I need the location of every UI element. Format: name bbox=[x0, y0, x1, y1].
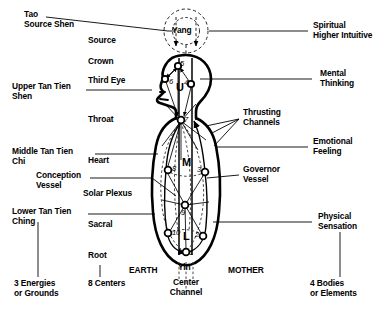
label-middle-tan-tien-mark: M bbox=[182, 156, 191, 169]
label-source: Source bbox=[88, 36, 116, 46]
center-node-4 bbox=[188, 81, 194, 87]
label-upper-tan-tien-mark: U bbox=[176, 81, 184, 94]
center-number-8: 8 bbox=[172, 165, 176, 174]
label-physical-sensation: Physical Sensation bbox=[318, 212, 357, 232]
center-node-3 bbox=[202, 169, 209, 176]
center-node-8 bbox=[165, 167, 172, 174]
label-heart: Heart bbox=[88, 156, 109, 166]
label-sacral: Sacral bbox=[88, 220, 113, 230]
label-yang: Yang bbox=[172, 26, 192, 36]
label-earth: EARTH bbox=[129, 266, 157, 276]
label-eight-centers: 8 Centers bbox=[88, 279, 125, 289]
center-node-2 bbox=[200, 233, 207, 240]
label-three-energies: 3 Energies or Grounds bbox=[14, 279, 59, 299]
label-four-bodies: 4 Bodies or Elements bbox=[310, 279, 357, 299]
label-spiritual-higher-intuitive: Spiritual Higher Intuitive bbox=[313, 21, 373, 41]
center-number-6: 6 bbox=[169, 78, 173, 87]
center-number-3: 3 bbox=[197, 166, 201, 175]
center-number-4: 4 bbox=[184, 79, 188, 88]
label-third-eye: Third Eye bbox=[88, 76, 125, 86]
label-crown: Crown bbox=[88, 57, 114, 67]
diagram-canvas: Tao Source Shen Upper Tan Tien Shen Midd… bbox=[0, 0, 373, 322]
center-number-2: 2 bbox=[195, 231, 199, 240]
label-lower-tan-tien-mark: L bbox=[183, 230, 190, 243]
label-lower-tan-tien: Lower Tan Tien Ching bbox=[12, 207, 71, 227]
label-middle-tan-tien: Middle Tan Tien Chi bbox=[12, 147, 73, 167]
label-root: Root bbox=[88, 251, 107, 261]
label-throat: Throat bbox=[88, 115, 113, 125]
label-center-channel: Center Channel bbox=[158, 278, 214, 298]
label-upper-tan-tien: Upper Tan Tien Shen bbox=[12, 82, 71, 102]
center-number-5: 5 bbox=[180, 60, 184, 69]
label-tao-source-shen: Tao Source Shen bbox=[24, 10, 74, 30]
label-emotional-feeling: Emotional Feeling bbox=[313, 137, 353, 157]
label-mother: MOTHER bbox=[228, 266, 264, 276]
center-number-10: 10 bbox=[172, 229, 180, 238]
center-number-9: 9 bbox=[181, 209, 185, 218]
label-governor-vessel: Governor Vessel bbox=[243, 165, 280, 185]
center-node-10 bbox=[165, 230, 172, 237]
label-mental-thinking: Mental Thinking bbox=[320, 69, 354, 89]
center-node-6 bbox=[162, 76, 168, 82]
label-yin: Yin bbox=[178, 263, 190, 273]
label-thrusting-channels: Thrusting Channels bbox=[243, 108, 281, 128]
center-number-7: 7 bbox=[184, 116, 188, 125]
label-solar-plexus: Solar Plexus bbox=[83, 189, 132, 199]
label-conception-vessel: Conception Vessel bbox=[36, 171, 81, 191]
center-number-1: 1 bbox=[189, 249, 193, 258]
